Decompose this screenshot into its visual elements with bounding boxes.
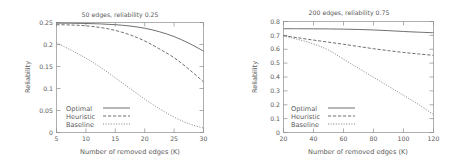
- y-axis-label: Reliability: [24, 61, 32, 93]
- legend-label-optimal: Optimal: [291, 105, 317, 113]
- y-tick-label: 0.25: [39, 19, 53, 26]
- x-tick-label: 100: [398, 135, 410, 142]
- chart-title: 50 edges, reliability 0.25: [82, 11, 159, 19]
- legend-label-optimal: Optimal: [66, 105, 92, 113]
- x-tick-label: 80: [370, 135, 378, 142]
- series-line-heuristic: [284, 36, 434, 56]
- chart-svg-left: 50 edges, reliability 0.25 0 0.05 0.1: [0, 0, 229, 164]
- y-tick-label: 0.1: [270, 115, 280, 122]
- dual-line-chart-figure: 50 edges, reliability 0.25 0 0.05 0.1: [0, 0, 458, 164]
- x-tick-label: 25: [170, 135, 178, 142]
- x-tick-label: 20: [280, 135, 288, 142]
- x-tick-label: 15: [111, 135, 119, 142]
- x-tick-label: 10: [82, 135, 90, 142]
- legend-label-baseline: Baseline: [291, 121, 319, 129]
- y-axis-label: Reliability: [251, 61, 259, 93]
- y-tick-label: 0.2: [270, 101, 280, 108]
- y-tick-label: 0.1: [43, 85, 53, 92]
- x-tick-label: 40: [310, 135, 318, 142]
- y-tick-label: 0.5: [270, 59, 280, 66]
- series-line-baseline: [284, 36, 434, 115]
- y-axis-tick-labels: 0 0.05 0.1 0.15 0.2 0.25: [39, 19, 53, 136]
- x-tick-label: 30: [200, 135, 208, 142]
- y-tick-label: 0.4: [270, 73, 280, 80]
- x-axis-tick-labels: 20 40 60 80 100 120: [280, 135, 440, 142]
- x-tick-label: 60: [340, 135, 348, 142]
- chart-panel-left: 50 edges, reliability 0.25 0 0.05 0.1: [0, 0, 229, 164]
- y-tick-label: 0.3: [270, 87, 280, 94]
- series-line-heuristic: [57, 25, 204, 82]
- chart-title: 200 edges, reliability 0.75: [309, 9, 390, 17]
- chart-panel-right: 200 edges, reliability 0.75: [229, 0, 458, 164]
- x-axis-tick-labels: 5 10 15 20 25 30: [55, 135, 208, 142]
- x-axis-label: Number of removed edges (K): [308, 148, 408, 156]
- series-line-optimal: [284, 29, 434, 33]
- chart-svg-right: 200 edges, reliability 0.75: [229, 0, 458, 164]
- x-axis-label: Number of removed edges (K): [80, 148, 180, 156]
- legend-label-heuristic: Heuristic: [66, 113, 96, 121]
- x-tick-label: 5: [55, 135, 59, 142]
- y-tick-label: 0.05: [39, 107, 53, 114]
- y-tick-label: 0.2: [43, 41, 53, 48]
- x-tick-label: 20: [141, 135, 149, 142]
- y-tick-label: 0.8: [270, 18, 280, 25]
- y-tick-label: 0.6: [270, 45, 280, 52]
- legend-label-heuristic: Heuristic: [291, 113, 321, 121]
- x-tick-label: 120: [428, 135, 440, 142]
- chart-legend: Optimal Heuristic Baseline: [291, 105, 355, 129]
- chart-legend: Optimal Heuristic Baseline: [66, 105, 130, 129]
- y-axis-tick-labels: 0 0.1 0.2 0.3 0.4 0.5 0.6 0.7 0.8: [270, 18, 280, 136]
- series-line-optimal: [57, 23, 204, 51]
- legend-label-baseline: Baseline: [66, 121, 94, 129]
- y-tick-label: 0.15: [39, 63, 53, 70]
- y-tick-label: 0: [49, 129, 53, 136]
- y-tick-label: 0.7: [270, 32, 280, 39]
